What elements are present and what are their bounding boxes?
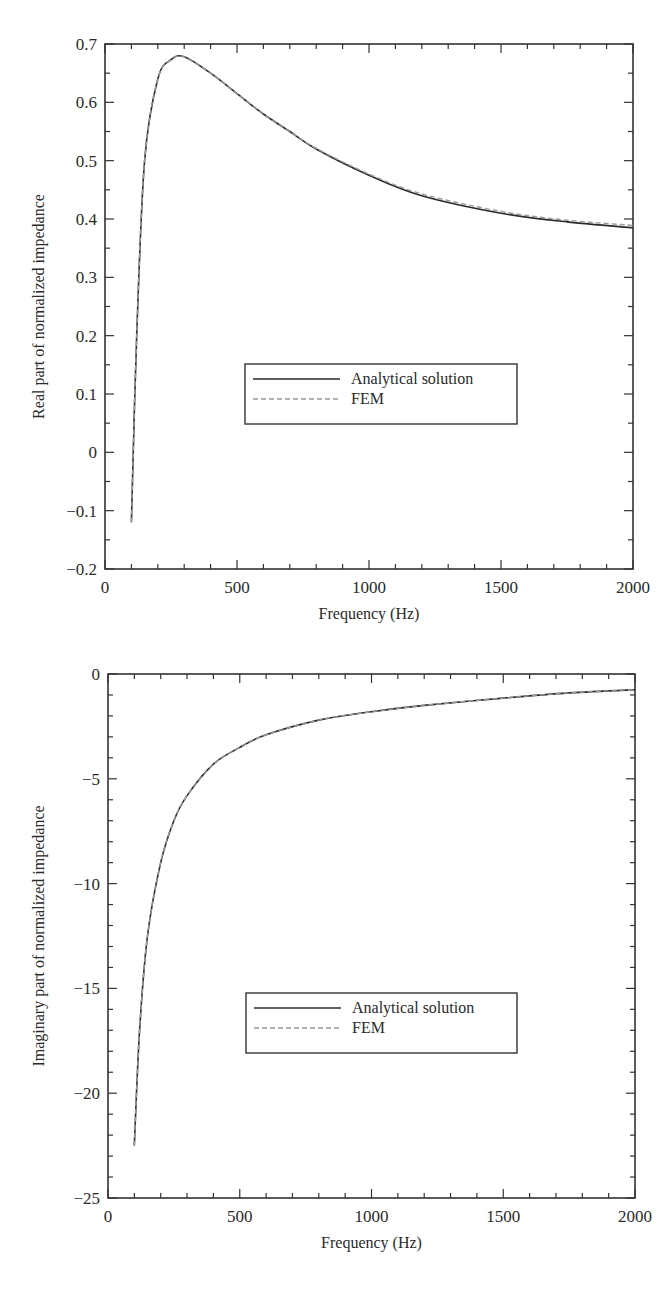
- figure: 0500100015002000−0.2−0.100.10.20.30.40.5…: [0, 0, 671, 1301]
- plot-frame: [105, 44, 633, 569]
- x-tick-label: 2000: [616, 578, 650, 597]
- y-tick-label: 0.4: [76, 210, 98, 229]
- analytical-curve: [131, 56, 633, 523]
- legend-label: FEM: [352, 1019, 385, 1036]
- y-axis-label: Real part of normalized impedance: [30, 194, 48, 419]
- legend: Analytical solutionFEM: [245, 364, 517, 424]
- legend-label: FEM: [351, 390, 384, 407]
- imaginary-part-plot: 0500100015002000−25−20−15−10−50Frequency…: [30, 665, 652, 1252]
- x-tick-label: 1500: [484, 578, 518, 597]
- y-tick-label: 0.2: [76, 327, 97, 346]
- x-tick-label: 1000: [352, 578, 386, 597]
- y-tick-label: 0.6: [76, 93, 97, 112]
- x-tick-label: 500: [227, 1207, 253, 1226]
- y-tick-label: 0: [89, 443, 98, 462]
- y-tick-label: 0: [92, 665, 101, 684]
- plot-frame: [108, 674, 635, 1198]
- x-axis-label: Frequency (Hz): [319, 605, 420, 623]
- x-tick-label: 0: [101, 578, 110, 597]
- y-tick-label: 0.3: [76, 268, 97, 287]
- y-tick-label: −20: [73, 1084, 100, 1103]
- real-part-plot: 0500100015002000−0.2−0.100.10.20.30.40.5…: [30, 35, 650, 623]
- fem-curve: [134, 690, 635, 1146]
- y-tick-label: −10: [73, 875, 100, 894]
- y-tick-label: −0.2: [66, 560, 97, 579]
- x-tick-label: 1500: [486, 1207, 520, 1226]
- x-tick-label: 2000: [618, 1207, 652, 1226]
- y-tick-label: −15: [73, 979, 100, 998]
- x-tick-label: 500: [224, 578, 250, 597]
- x-tick-label: 0: [104, 1207, 113, 1226]
- y-tick-label: 0.7: [76, 35, 98, 54]
- legend: Analytical solutionFEM: [246, 993, 517, 1053]
- y-tick-label: 0.5: [76, 152, 97, 171]
- y-tick-label: 0.1: [76, 385, 97, 404]
- x-tick-label: 1000: [355, 1207, 389, 1226]
- analytical-curve: [134, 690, 635, 1146]
- legend-label: Analytical solution: [351, 370, 473, 388]
- fem-curve: [131, 56, 633, 523]
- y-tick-label: −5: [82, 770, 100, 789]
- legend-label: Analytical solution: [352, 999, 474, 1017]
- x-axis-label: Frequency (Hz): [321, 1234, 422, 1252]
- y-tick-label: −25: [73, 1189, 100, 1208]
- y-axis-label: Imaginary part of normalized impedance: [30, 805, 48, 1066]
- y-tick-label: −0.1: [66, 502, 97, 521]
